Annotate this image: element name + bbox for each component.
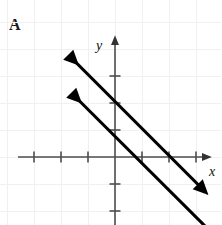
background-grid [0,0,221,225]
y-axis-label: y [94,38,103,53]
graph-figure: A [0,0,221,225]
x-axis-label: x [208,164,216,179]
x-axis [18,152,207,163]
line-upper-segment [74,60,204,190]
line-lower-segment [77,98,222,225]
coordinate-plane: y x [0,0,221,225]
